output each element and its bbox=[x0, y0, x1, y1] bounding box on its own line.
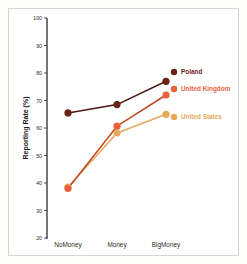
x-tick-label-money: Money bbox=[107, 241, 127, 249]
x-axis-tick-labels: NoMoney Money BigMoney bbox=[54, 241, 181, 249]
legend-swatch-united-kingdom bbox=[171, 86, 177, 92]
data-point[interactable] bbox=[64, 185, 71, 192]
legend-swatch-united-states bbox=[171, 114, 177, 120]
y-axis-tick-labels: 100 90 80 70 60 50 40 30 20 bbox=[33, 15, 42, 241]
y-tick-label-100: 100 bbox=[33, 15, 42, 21]
data-point[interactable] bbox=[162, 91, 169, 98]
y-tick-label-90: 90 bbox=[36, 43, 42, 49]
data-point[interactable] bbox=[113, 101, 120, 108]
y-tick-label-40: 40 bbox=[36, 180, 42, 186]
legend-label-united-states: United States bbox=[181, 113, 222, 120]
y-tick-label-80: 80 bbox=[36, 70, 42, 76]
y-tick-label-70: 70 bbox=[36, 98, 42, 104]
y-tick-label-20: 20 bbox=[36, 235, 42, 241]
legend-label-united-kingdom: United Kingdom bbox=[181, 85, 231, 93]
line-chart: 100 90 80 70 60 50 40 30 20 Reporting Ra… bbox=[0, 0, 247, 264]
legend-swatch-poland bbox=[171, 69, 177, 75]
series-line-united-kingdom bbox=[68, 95, 166, 189]
figure-container: 100 90 80 70 60 50 40 30 20 Reporting Ra… bbox=[0, 0, 247, 264]
data-point[interactable] bbox=[113, 123, 120, 130]
y-tick-label-30: 30 bbox=[36, 208, 42, 214]
data-point[interactable] bbox=[113, 129, 120, 136]
x-tick-label-bigmoney: BigMoney bbox=[152, 241, 181, 249]
data-point[interactable] bbox=[162, 111, 169, 118]
x-tick-label-nomoney: NoMoney bbox=[54, 241, 82, 249]
legend: Poland United Kingdom United States bbox=[171, 68, 231, 120]
legend-label-poland: Poland bbox=[181, 68, 202, 75]
data-point[interactable] bbox=[64, 109, 71, 116]
y-tick-label-60: 60 bbox=[36, 125, 42, 131]
y-axis-title: Reporting Rate (%) bbox=[22, 97, 30, 160]
data-point[interactable] bbox=[162, 78, 169, 85]
y-tick-label-50: 50 bbox=[36, 153, 42, 159]
